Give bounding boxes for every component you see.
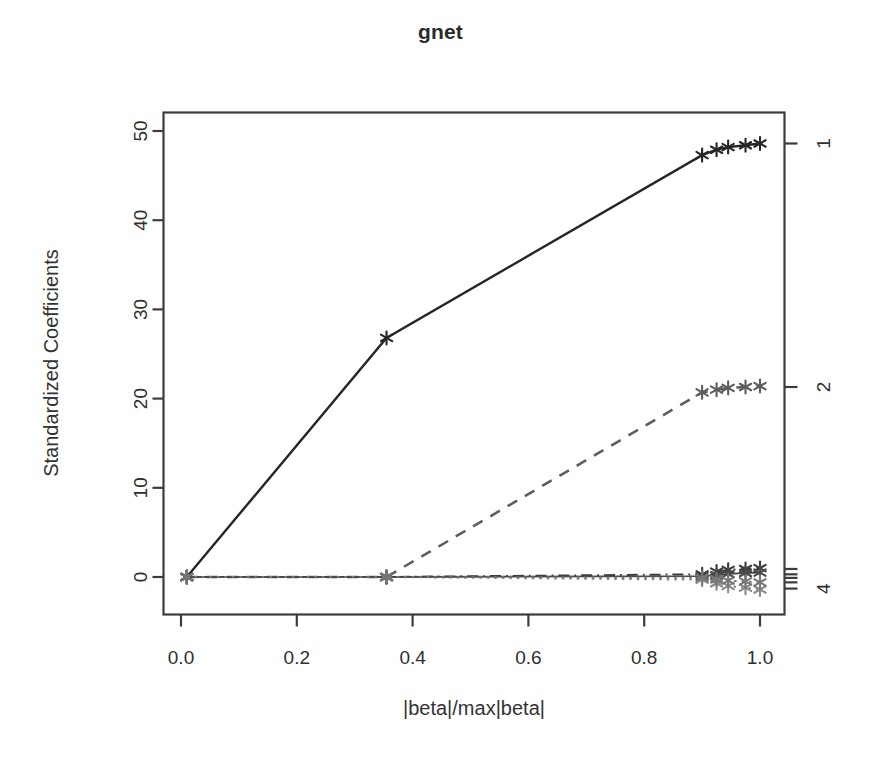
right-tick-label: 1 bbox=[813, 138, 834, 149]
y-tick-label: 50 bbox=[130, 120, 151, 141]
x-tick-label: 0.6 bbox=[515, 647, 541, 668]
chart-canvas: gnet 01020304050 0.00.20.40.60.81.0 124 … bbox=[0, 0, 881, 768]
series-layer bbox=[181, 137, 765, 596]
x-tick-label: 0.0 bbox=[168, 647, 194, 668]
x-tick-label: 0.8 bbox=[631, 647, 657, 668]
series-line-4 bbox=[187, 577, 760, 590]
right-tick-label: 2 bbox=[813, 382, 834, 393]
y-tick-label: 20 bbox=[130, 388, 151, 409]
series-3 bbox=[181, 562, 765, 584]
right-axis-ticks: 124 bbox=[785, 138, 834, 594]
y-axis-ticks: 01020304050 bbox=[130, 120, 164, 582]
y-tick-label: 30 bbox=[130, 299, 151, 320]
data-point-marker bbox=[696, 149, 707, 162]
right-tick-label: 4 bbox=[813, 583, 834, 594]
plot-frame bbox=[164, 113, 785, 615]
y-tick-label: 10 bbox=[130, 477, 151, 498]
series-6 bbox=[181, 571, 765, 589]
y-tick-label: 40 bbox=[130, 210, 151, 231]
x-tick-label: 0.2 bbox=[284, 647, 310, 668]
x-tick-label: 1.0 bbox=[747, 647, 773, 668]
series-1 bbox=[181, 137, 765, 584]
coefficient-path-plot: 01020304050 0.00.20.40.60.81.0 124 Stand… bbox=[0, 0, 881, 768]
series-line-1 bbox=[187, 144, 760, 578]
data-point-marker bbox=[754, 380, 765, 393]
series-line-2 bbox=[187, 386, 760, 577]
y-tick-label: 0 bbox=[130, 572, 151, 583]
y-axis-label: Standardized Coefficients bbox=[40, 249, 62, 477]
series-2 bbox=[181, 380, 765, 584]
x-axis-ticks: 0.00.20.40.60.81.0 bbox=[168, 615, 773, 669]
x-tick-label: 0.4 bbox=[399, 647, 426, 668]
x-axis-label: |beta|/max|beta| bbox=[403, 697, 545, 719]
